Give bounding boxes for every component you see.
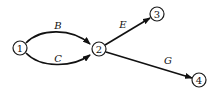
node-1: 1: [13, 41, 27, 55]
edge-c: C: [26, 53, 90, 65]
edge-g-arrow: [106, 52, 192, 78]
edge-b-label: B: [53, 20, 61, 31]
graph-canvas: B C E G 1 2 3 4: [0, 0, 216, 94]
node-3: 3: [150, 7, 164, 21]
node-4-label: 4: [196, 75, 202, 86]
edge-e-arrow: [105, 18, 150, 45]
node-2: 2: [92, 42, 106, 56]
edge-g: G: [106, 52, 192, 78]
edge-e: E: [105, 18, 150, 45]
node-4: 4: [192, 73, 206, 87]
edge-e-label: E: [118, 19, 127, 30]
edge-b-arrow: [26, 32, 90, 44]
edge-g-label: G: [164, 55, 172, 66]
node-2-label: 2: [96, 44, 102, 55]
edge-c-label: C: [54, 53, 62, 64]
node-3-label: 3: [154, 9, 160, 20]
edge-b: B: [26, 20, 90, 44]
node-1-label: 1: [17, 43, 23, 54]
